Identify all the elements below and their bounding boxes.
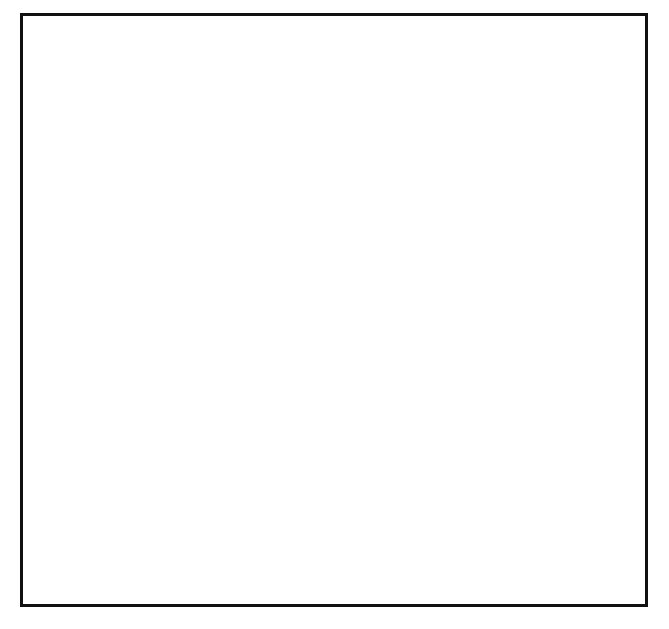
slice-label-general-government (82, 489, 292, 629)
slice-label-corrections (412, 524, 602, 629)
slice-label-health-human-services (398, 115, 630, 347)
slice-label-public-education (36, 205, 216, 437)
pie-chart-figure (0, 0, 669, 629)
slice-label-other (280, 524, 390, 629)
